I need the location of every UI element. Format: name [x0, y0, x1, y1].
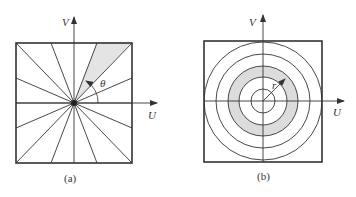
v-axis-label-a: V: [62, 17, 69, 28]
v-axis-label-b: V: [249, 17, 256, 28]
caption-b: (b): [257, 171, 270, 182]
panel-a-wedge-diagram: [16, 17, 157, 163]
radius-label: r: [272, 80, 276, 91]
theta-label: θ: [100, 78, 105, 89]
diagram-canvas: [0, 0, 356, 197]
u-axis-label-b: U: [333, 107, 341, 118]
caption-a: (a): [64, 173, 76, 184]
origin-dot: [71, 100, 77, 106]
u-axis-label-a: U: [148, 110, 156, 121]
